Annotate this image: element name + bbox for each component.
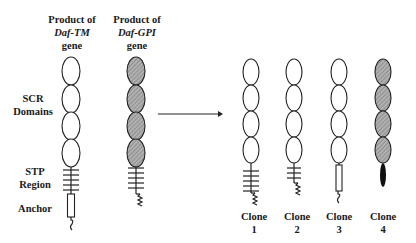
scr-domain-3: [62, 112, 80, 140]
scr-domain-4: [127, 139, 145, 167]
scr-domain-2: [243, 85, 259, 111]
gpi-anchor: [296, 183, 300, 195]
scr-domain-2: [375, 85, 391, 111]
label-scr: SCR: [22, 93, 43, 104]
scr-domain-4: [331, 137, 347, 163]
transmembrane-anchor: [336, 165, 342, 191]
clone-4-number: 4: [380, 224, 386, 235]
clone-4-label: Clone: [370, 211, 397, 222]
scr-domain-4: [286, 137, 302, 163]
cytoplasmic-tail: [338, 191, 340, 203]
daf-gpi-molecule: [127, 57, 145, 206]
header-line-1: Product of: [113, 14, 161, 25]
scr-domain-2: [62, 85, 80, 113]
label-region: Region: [19, 179, 51, 190]
scr-domain-4: [375, 137, 391, 163]
scr-domain-1: [243, 59, 259, 85]
clone-3-number: 3: [336, 224, 341, 235]
stp-region-bars: [128, 167, 144, 194]
column-header-daf-tm: Product of Daf-TM gene: [48, 14, 96, 51]
scr-domain-2: [127, 85, 145, 113]
clone-2-label: Clone: [284, 211, 311, 222]
header-line-3: gene: [127, 40, 148, 51]
scr-domain-2: [286, 85, 302, 111]
stp-region-bars: [63, 167, 79, 194]
scr-domain-1: [127, 57, 145, 85]
clone-4-molecule: [375, 59, 391, 187]
clone-1-label: Clone: [241, 211, 268, 222]
clone-1-molecule: [243, 59, 259, 205]
label-stp: STP: [25, 166, 45, 177]
scr-domain-3: [243, 111, 259, 137]
scr-domain-1: [62, 57, 80, 85]
clone-2-molecule: [286, 59, 302, 195]
header-gene-name: Daf-GPI: [117, 27, 157, 38]
row-label-anchor: Anchor: [18, 203, 52, 214]
clone-1-number: 1: [251, 224, 256, 235]
clone-3-molecule: [331, 59, 347, 203]
label-domains: Domains: [13, 106, 53, 117]
daf-tm-molecule: [62, 57, 80, 230]
header-line-1: Product of: [48, 14, 96, 25]
scr-domain-3: [286, 111, 302, 137]
scr-domain-4: [243, 137, 259, 163]
scr-domain-1: [286, 59, 302, 85]
column-header-daf-gpi: Product of Daf-GPI gene: [113, 14, 161, 51]
scr-domain-1: [375, 59, 391, 85]
transmembrane-anchor: [68, 194, 75, 217]
scr-domain-3: [331, 111, 347, 137]
scr-domain-3: [127, 112, 145, 140]
clone-2-number: 2: [294, 224, 299, 235]
clone-3-label: Clone: [326, 211, 353, 222]
row-label-scr-domains: SCR Domains: [13, 93, 53, 117]
diagram-canvas: Product of Daf-TM gene Product of Daf-GP…: [0, 0, 416, 243]
scr-domain-1: [331, 59, 347, 85]
scr-domain-3: [375, 111, 391, 137]
gpi-anchor: [253, 193, 257, 205]
scr-domain-2: [331, 85, 347, 111]
gpi-anchor: [138, 194, 142, 206]
transform-arrow: [158, 111, 223, 117]
cytoplasmic-tail: [71, 217, 73, 230]
header-line-3: gene: [62, 40, 83, 51]
row-label-stp-region: STP Region: [19, 166, 51, 190]
scr-domain-4: [62, 139, 80, 167]
solid-stem: [380, 163, 386, 187]
header-gene-name: Daf-TM: [53, 27, 90, 38]
